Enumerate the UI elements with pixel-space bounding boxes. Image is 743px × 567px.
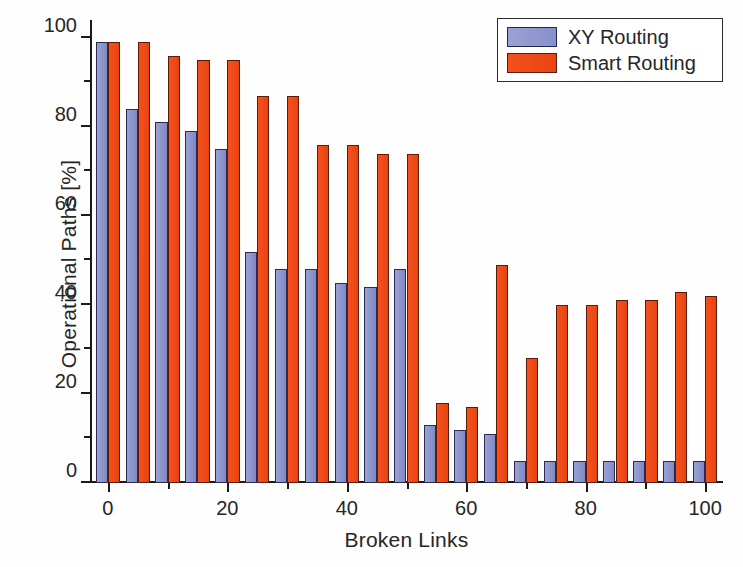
bar-xy-40 xyxy=(335,283,347,483)
bar-xy-45 xyxy=(364,287,376,483)
x-tick-major xyxy=(705,483,707,492)
y-tick-minor xyxy=(84,258,90,260)
bar-smart-50 xyxy=(407,154,419,483)
bar-smart-40 xyxy=(347,145,359,483)
bar-xy-65 xyxy=(484,434,496,483)
bar-xy-20 xyxy=(215,149,227,483)
x-tick-label: 0 xyxy=(102,497,113,520)
bar-smart-20 xyxy=(227,60,239,483)
bar-smart-15 xyxy=(197,60,209,483)
bar-xy-55 xyxy=(424,425,436,483)
y-tick-label: 80 xyxy=(55,102,77,125)
bar-smart-55 xyxy=(436,403,448,483)
bar-smart-80 xyxy=(586,305,598,483)
y-axis-line xyxy=(90,20,92,483)
x-tick-major xyxy=(466,483,468,492)
bar-xy-35 xyxy=(305,269,317,483)
y-tick-major xyxy=(81,214,90,216)
x-tick-major xyxy=(586,483,588,492)
y-tick-major xyxy=(81,125,90,127)
y-tick-label: 100 xyxy=(44,13,77,36)
y-tick-label: 40 xyxy=(55,280,77,303)
bar-smart-90 xyxy=(645,300,657,483)
legend-item-xy-routing: XY Routing xyxy=(507,24,722,50)
bar-smart-5 xyxy=(138,42,150,483)
bar-smart-10 xyxy=(168,56,180,483)
bar-xy-70 xyxy=(514,461,526,483)
bar-xy-60 xyxy=(454,430,466,483)
x-axis-title: Broken Links xyxy=(90,528,723,552)
bar-xy-0 xyxy=(96,42,108,483)
bar-smart-60 xyxy=(466,407,478,483)
y-tick-minor xyxy=(84,436,90,438)
x-tick-minor xyxy=(526,483,528,489)
bar-smart-25 xyxy=(257,96,269,483)
y-tick-minor xyxy=(84,169,90,171)
bar-xy-50 xyxy=(394,269,406,483)
x-tick-label: 100 xyxy=(688,497,721,520)
bar-xy-15 xyxy=(185,131,197,483)
legend-swatch-smart-routing xyxy=(507,53,557,73)
x-tick-major xyxy=(347,483,349,492)
bar-xy-85 xyxy=(603,461,615,483)
bar-smart-95 xyxy=(675,292,687,483)
legend-swatch-xy-routing xyxy=(507,27,557,47)
legend-label-xy-routing: XY Routing xyxy=(568,26,669,49)
x-tick-major xyxy=(108,483,110,492)
y-tick-major xyxy=(81,392,90,394)
bar-smart-45 xyxy=(377,154,389,483)
legend-item-smart-routing: Smart Routing xyxy=(507,50,722,76)
x-tick-major xyxy=(227,483,229,492)
y-tick-major xyxy=(81,303,90,305)
x-tick-label: 40 xyxy=(336,497,358,520)
plot-area: 020406080100 020406080100 xyxy=(90,20,723,483)
y-tick-minor xyxy=(84,347,90,349)
bar-xy-80 xyxy=(573,461,585,483)
x-tick-label: 60 xyxy=(455,497,477,520)
y-tick-label: 0 xyxy=(66,459,77,482)
bar-smart-75 xyxy=(556,305,568,483)
x-tick-label: 20 xyxy=(216,497,238,520)
bar-xy-75 xyxy=(544,461,556,483)
y-tick-major xyxy=(81,481,90,483)
bar-smart-85 xyxy=(616,300,628,483)
x-tick-minor xyxy=(287,483,289,489)
bar-xy-30 xyxy=(275,269,287,483)
bar-smart-0 xyxy=(108,42,120,483)
bar-smart-70 xyxy=(526,358,538,483)
x-tick-minor xyxy=(407,483,409,489)
bar-smart-65 xyxy=(496,265,508,483)
y-tick-label: 60 xyxy=(55,191,77,214)
y-tick-minor xyxy=(84,80,90,82)
bar-xy-5 xyxy=(126,109,138,483)
x-tick-label: 80 xyxy=(575,497,597,520)
bar-smart-100 xyxy=(705,296,717,483)
bar-xy-10 xyxy=(155,122,167,483)
x-tick-minor xyxy=(168,483,170,489)
bar-xy-25 xyxy=(245,252,257,484)
bar-xy-95 xyxy=(663,461,675,483)
legend-label-smart-routing: Smart Routing xyxy=(568,52,696,75)
bar-xy-100 xyxy=(693,461,705,483)
y-tick-major xyxy=(81,36,90,38)
bar-chart-figure: Operational Paths [%] Broken Links 02040… xyxy=(0,0,743,567)
bar-xy-90 xyxy=(633,461,645,483)
x-tick-minor xyxy=(645,483,647,489)
y-tick-label: 20 xyxy=(55,369,77,392)
chart-legend: XY Routing Smart Routing xyxy=(497,18,723,82)
bar-smart-35 xyxy=(317,145,329,483)
bar-smart-30 xyxy=(287,96,299,483)
